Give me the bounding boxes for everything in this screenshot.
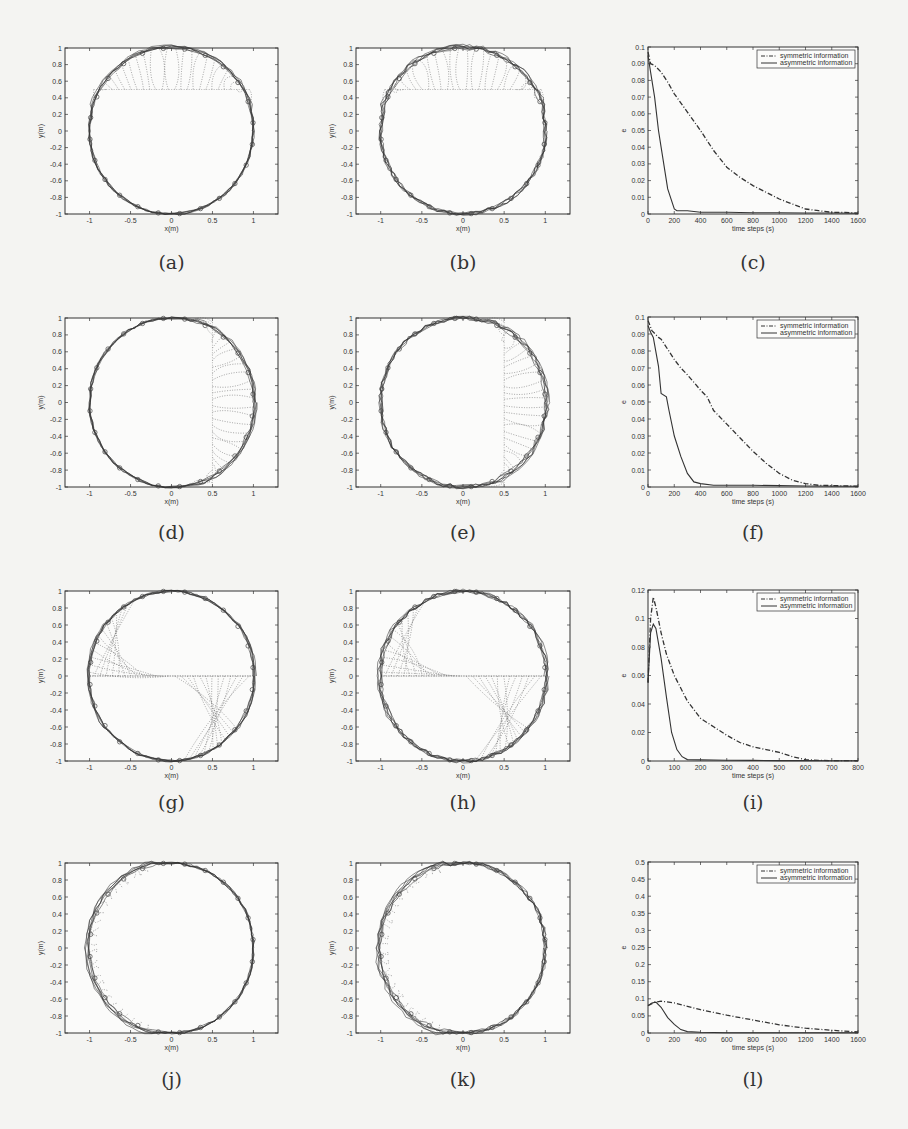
svg-text:-1: -1 <box>86 217 92 224</box>
svg-text:-0.5: -0.5 <box>416 490 428 497</box>
svg-text:1: 1 <box>349 45 353 52</box>
svg-text:1: 1 <box>349 315 353 322</box>
svg-text:-0.4: -0.4 <box>50 161 62 168</box>
svg-text:-0.2: -0.2 <box>50 416 62 423</box>
svg-text:1: 1 <box>251 1036 255 1043</box>
svg-text:0.25: 0.25 <box>631 944 645 951</box>
svg-text:0.3: 0.3 <box>635 927 645 934</box>
svg-text:0.02: 0.02 <box>631 729 645 736</box>
svg-text:0: 0 <box>646 1036 650 1043</box>
svg-text:0.04: 0.04 <box>631 701 645 708</box>
svg-text:0.4: 0.4 <box>343 94 353 101</box>
svg-text:0.01: 0.01 <box>631 194 645 201</box>
panel-l: 0200400600800100012001400160000.050.10.1… <box>648 862 858 1033</box>
svg-text:0.09: 0.09 <box>631 60 645 67</box>
svg-text:-0.2: -0.2 <box>50 690 62 697</box>
svg-text:-0.4: -0.4 <box>341 979 353 986</box>
svg-text:0.8: 0.8 <box>52 877 62 884</box>
svg-text:0.2: 0.2 <box>52 111 62 118</box>
svg-text:0.06: 0.06 <box>631 110 645 117</box>
svg-text:-1: -1 <box>378 217 384 224</box>
svg-text:time steps (s): time steps (s) <box>732 498 774 506</box>
plot-area-i: 010020030040050060070080000.020.040.060.… <box>648 590 858 761</box>
svg-text:-0.8: -0.8 <box>341 194 353 201</box>
svg-text:0.6: 0.6 <box>343 894 353 901</box>
svg-text:-0.2: -0.2 <box>50 962 62 969</box>
svg-text:0.07: 0.07 <box>631 365 645 372</box>
plot-area-g: -1-0.500.51-1-0.8-0.6-0.4-0.200.20.40.60… <box>65 591 278 761</box>
svg-text:-0.4: -0.4 <box>341 433 353 440</box>
plot-area-f: 0200400600800100012001400160000.010.020.… <box>648 317 858 487</box>
svg-text:1: 1 <box>251 217 255 224</box>
svg-text:0.4: 0.4 <box>52 639 62 646</box>
svg-text:0.4: 0.4 <box>343 639 353 646</box>
svg-text:e: e <box>620 400 627 404</box>
svg-text:-0.4: -0.4 <box>50 433 62 440</box>
svg-text:0.6: 0.6 <box>343 78 353 85</box>
svg-text:0.4: 0.4 <box>635 893 645 900</box>
svg-text:0.8: 0.8 <box>343 331 353 338</box>
svg-text:-1: -1 <box>86 490 92 497</box>
svg-text:-0.2: -0.2 <box>341 690 353 697</box>
svg-text:0.2: 0.2 <box>343 656 353 663</box>
svg-text:0.04: 0.04 <box>631 416 645 423</box>
svg-text:0.2: 0.2 <box>635 961 645 968</box>
svg-text:1: 1 <box>58 860 62 867</box>
svg-text:-0.6: -0.6 <box>50 177 62 184</box>
svg-text:0.02: 0.02 <box>631 177 645 184</box>
svg-text:0.8: 0.8 <box>343 61 353 68</box>
svg-text:0: 0 <box>461 490 465 497</box>
svg-text:0.4: 0.4 <box>343 365 353 372</box>
svg-text:0.6: 0.6 <box>52 894 62 901</box>
svg-text:0.45: 0.45 <box>631 876 645 883</box>
svg-text:0.06: 0.06 <box>631 382 645 389</box>
svg-text:0.1: 0.1 <box>635 44 645 51</box>
svg-text:0: 0 <box>58 945 62 952</box>
svg-text:-0.4: -0.4 <box>50 707 62 714</box>
svg-text:0.6: 0.6 <box>343 348 353 355</box>
panel-j: -1-0.500.51-1-0.8-0.6-0.4-0.200.20.40.60… <box>65 863 278 1033</box>
svg-text:-1: -1 <box>378 764 384 771</box>
svg-text:0.05: 0.05 <box>631 127 645 134</box>
plot-area-c: 0200400600800100012001400160000.010.020.… <box>648 47 858 214</box>
svg-text:asymmetric information: asymmetric information <box>780 602 852 610</box>
svg-text:-0.8: -0.8 <box>341 1013 353 1020</box>
svg-text:x(m): x(m) <box>456 1044 470 1052</box>
svg-text:x(m): x(m) <box>165 225 179 233</box>
svg-text:0: 0 <box>349 128 353 135</box>
svg-text:-1: -1 <box>86 764 92 771</box>
svg-text:1400: 1400 <box>824 490 840 497</box>
svg-text:0.2: 0.2 <box>343 382 353 389</box>
svg-text:y(m): y(m) <box>37 941 45 955</box>
svg-text:1: 1 <box>543 764 547 771</box>
plot-area-d: -1-0.500.51-1-0.8-0.6-0.4-0.200.20.40.60… <box>65 318 278 487</box>
plot-area-h: -1-0.500.51-1-0.8-0.6-0.4-0.200.20.40.60… <box>356 591 570 761</box>
svg-text:0: 0 <box>461 764 465 771</box>
svg-text:0: 0 <box>646 764 650 771</box>
svg-text:time steps (s): time steps (s) <box>732 1044 774 1052</box>
svg-text:1: 1 <box>349 588 353 595</box>
svg-text:0.5: 0.5 <box>499 764 509 771</box>
svg-text:0: 0 <box>641 484 645 491</box>
svg-text:-1: -1 <box>56 484 62 491</box>
svg-text:0: 0 <box>170 1036 174 1043</box>
plot-area-b: -1-0.500.51-1-0.8-0.6-0.4-0.200.20.40.60… <box>356 48 570 214</box>
svg-text:-0.2: -0.2 <box>341 144 353 151</box>
svg-text:0: 0 <box>58 399 62 406</box>
svg-text:0.2: 0.2 <box>343 111 353 118</box>
svg-text:x(m): x(m) <box>165 1044 179 1052</box>
svg-text:1000: 1000 <box>771 490 787 497</box>
svg-text:1: 1 <box>58 315 62 322</box>
svg-text:0.06: 0.06 <box>631 672 645 679</box>
svg-text:0.8: 0.8 <box>52 331 62 338</box>
svg-text:0.2: 0.2 <box>52 656 62 663</box>
svg-text:1600: 1600 <box>850 1036 866 1043</box>
svg-text:y(m): y(m) <box>328 941 336 955</box>
svg-text:0.5: 0.5 <box>499 217 509 224</box>
svg-text:0.08: 0.08 <box>631 348 645 355</box>
svg-text:-0.6: -0.6 <box>341 177 353 184</box>
subfigure-label-l: (l) <box>743 1068 764 1090</box>
svg-text:-0.5: -0.5 <box>416 1036 428 1043</box>
svg-text:0.1: 0.1 <box>635 615 645 622</box>
svg-text:-0.8: -0.8 <box>341 741 353 748</box>
